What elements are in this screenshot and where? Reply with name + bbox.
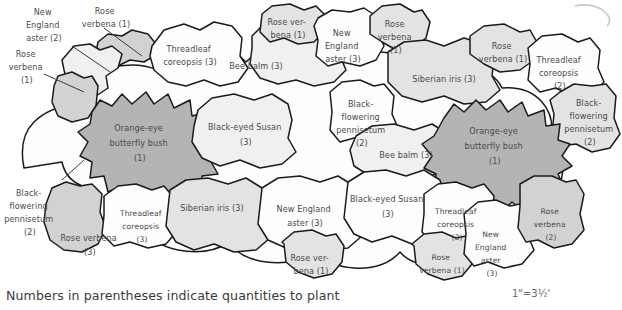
label-bee-balm-top: Bee balm (3) <box>229 61 283 71</box>
garden-plan-diagram: New England aster (2) Rose verbena (1) R… <box>0 0 622 310</box>
callout-rose-verbena-left: Rose verbena (1) <box>9 49 46 85</box>
bed-siberian-iris-lower[interactable] <box>166 178 270 252</box>
figure-caption: Numbers in parentheses indicate quantiti… <box>6 288 340 303</box>
decorative-flourish <box>575 5 610 26</box>
label-siberian-iris-top-right: Siberian iris (3) <box>412 74 476 84</box>
scale-notation: 1"=3½' <box>512 288 550 299</box>
bed-threadleaf-coreopsis-top[interactable] <box>150 22 248 86</box>
callout-new-england-aster: New England aster (2) <box>26 7 62 43</box>
label-bee-balm-center: Bee balm (3) <box>379 150 433 160</box>
callout-rose-verbena-top: Rose verbena (1) <box>82 6 130 29</box>
label-siberian-iris-lower: Siberian iris (3) <box>180 203 244 213</box>
